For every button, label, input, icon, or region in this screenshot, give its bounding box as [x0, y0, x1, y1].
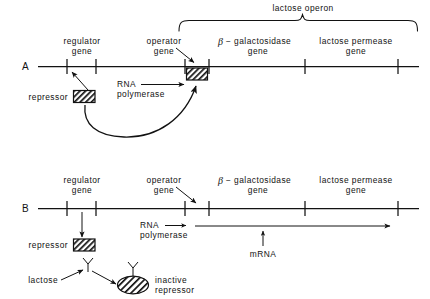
panel-a-regulator-gene-label-line1: regulator — [63, 36, 100, 46]
panel-a-chromosome — [38, 59, 419, 74]
panel-b-active-repressor-glyph — [83, 258, 93, 272]
panel-b-lactose-permease-label-line1: lactose permease — [319, 175, 392, 185]
panel-a-lactose-permease-label-line2: gene — [346, 46, 366, 56]
panel-b-letter: B — [22, 203, 29, 214]
panel-b-inactive-repressor-label-line2: repressor — [155, 285, 194, 295]
panel-a-letter: A — [22, 61, 29, 72]
panel-a-beta-symbol: β — [217, 36, 223, 47]
panel-b-regulator-gene-label-line2: gene — [72, 185, 92, 195]
panel-a-lactose-permease-label-line1: lactose permease — [319, 36, 392, 46]
lactose-operon-label: lactose operon — [272, 3, 333, 13]
panel-b-lactose-label: lactose — [28, 275, 58, 285]
panel-b-repressor-label: repressor — [29, 240, 68, 250]
panel-b-operator-gene-label-line2: gene — [154, 185, 174, 195]
panel-a-operator-gene-label-line1: operator — [147, 36, 182, 46]
panel-b-lactose-arrow — [61, 270, 83, 280]
panel-b-operator-pointer-arrow — [176, 187, 196, 203]
panel-a-repressor-label: repressor — [29, 92, 68, 102]
panel-b-inactivation-arrow — [92, 271, 116, 284]
panel-b-inactive-repressor-glyph — [118, 262, 149, 294]
lac-operon-diagram: lactose operon A regulator gene operator… — [0, 0, 430, 299]
lactose-operon-brace — [179, 15, 418, 32]
panel-b-beta-gal-label-line1: − galactosidase — [226, 175, 291, 185]
panel-a-bound-repressor-box — [187, 68, 208, 80]
panel-b-beta-gal-label-line2: gene — [248, 185, 268, 195]
panel-a-beta-gal-label-line1: − galactosidase — [226, 36, 291, 46]
panel-a-beta-gal-label-line2: gene — [248, 46, 268, 56]
panel-b-rna-polymerase-label-line1: RNA — [140, 220, 159, 230]
panel-b-rna-polymerase-label-line2: polymerase — [140, 230, 188, 240]
panel-b-lactose-permease-label-line2: gene — [346, 185, 366, 195]
panel-a-operator-gene-label-line2: gene — [154, 46, 174, 56]
panel-b-mrna-label: mRNA — [250, 249, 276, 259]
panel-b-free-repressor-box — [74, 239, 96, 251]
panel-a-rna-polymerase-label-line2: polymerase — [117, 89, 165, 99]
panel-a-regulator-gene-label-line2: gene — [72, 46, 92, 56]
panel-a-regulator-to-repressor-arrow — [72, 72, 88, 90]
panel-b-beta-symbol: β — [217, 175, 223, 186]
figure-root: lactose operon A regulator gene operator… — [0, 0, 430, 299]
panel-b-operator-gene-label-line1: operator — [147, 175, 182, 185]
panel-b-chromosome — [38, 201, 419, 216]
panel-a-rna-polymerase-label-line1: RNA — [117, 79, 136, 89]
panel-b-inactive-repressor-label-line1: inactive — [155, 275, 187, 285]
panel-a-free-repressor-box — [74, 91, 96, 103]
panel-b-regulator-gene-label-line1: regulator — [63, 175, 100, 185]
